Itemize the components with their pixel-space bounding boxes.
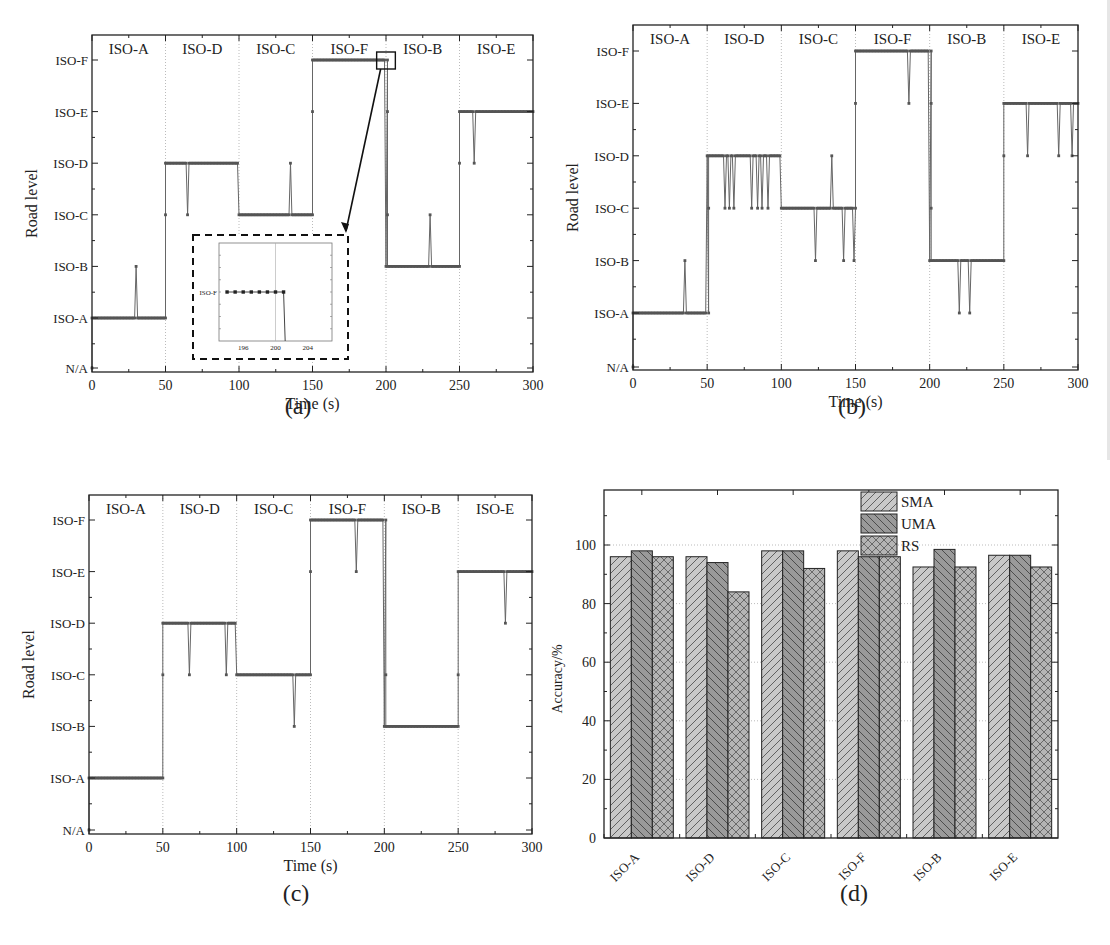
- panel-d: ISO-AISO-DISO-CISO-FISO-BISO-E0204060801…: [0, 0, 1110, 945]
- legend-swatch-uma: [861, 514, 897, 533]
- legend-swatch-rs: [861, 536, 897, 555]
- bar-rs: [1031, 567, 1052, 838]
- legend-label-uma: UMA: [901, 516, 936, 532]
- bar-uma: [631, 551, 652, 838]
- y-tick-label: 40: [582, 714, 596, 729]
- legend-swatch-sma: [861, 492, 897, 511]
- y-tick-label: 60: [582, 655, 596, 670]
- legend-label-sma: SMA: [901, 494, 934, 510]
- bar-uma: [707, 563, 728, 838]
- x-tick-label: ISO-F: [835, 850, 869, 884]
- y-tick-label: 0: [589, 831, 596, 846]
- bar-rs: [879, 557, 900, 838]
- bar-sma: [989, 555, 1010, 838]
- x-tick-label: ISO-B: [910, 849, 945, 884]
- caption-d: (d): [824, 880, 884, 907]
- legend-label-rs: RS: [901, 538, 919, 554]
- x-tick-label: ISO-E: [986, 849, 1020, 883]
- bar-uma: [934, 549, 955, 838]
- bar-sma: [837, 551, 858, 838]
- bar-uma: [858, 557, 879, 838]
- bar-rs: [804, 568, 825, 838]
- bar-uma: [1010, 555, 1031, 838]
- bar-sma: [762, 551, 783, 838]
- bar-sma: [686, 557, 707, 838]
- y-tick-label: 100: [575, 538, 596, 553]
- y-tick-label: 20: [582, 772, 596, 787]
- chart-d: ISO-AISO-DISO-CISO-FISO-BISO-E0204060801…: [0, 0, 1110, 945]
- bar-rs: [652, 557, 673, 838]
- bar-rs: [728, 592, 749, 838]
- bar-uma: [783, 551, 804, 838]
- x-tick-label: ISO-A: [607, 849, 643, 885]
- bar-sma: [610, 557, 631, 838]
- bar-rs: [955, 567, 976, 838]
- bar-sma: [913, 567, 934, 838]
- x-tick-label: ISO-D: [682, 850, 717, 885]
- y-tick-label: 80: [582, 597, 596, 612]
- x-tick-label: ISO-C: [759, 850, 794, 885]
- y-axis-label: Accuracy/%: [550, 644, 565, 714]
